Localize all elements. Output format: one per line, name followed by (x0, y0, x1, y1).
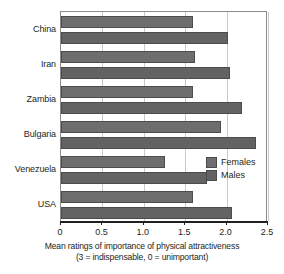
bar-chart-figure: ChinaIranZambiaBulgariaVenezuelaUSA 00.5… (0, 0, 284, 274)
x-tick-label: 2.5 (252, 227, 282, 238)
legend-swatch-icon (206, 157, 217, 168)
bar-males (61, 67, 230, 79)
bar-group (61, 121, 266, 149)
x-tick (101, 221, 102, 225)
bar-females (61, 51, 195, 63)
x-tick (226, 221, 227, 225)
bar-females (61, 121, 221, 133)
x-tick (184, 221, 185, 225)
x-tick (60, 221, 61, 225)
bars-layer (61, 12, 266, 221)
category-label-china: China (0, 24, 56, 34)
bar-group (61, 191, 266, 219)
category-label-venezuela: Venezuela (0, 164, 56, 174)
x-tick-label: 0.5 (86, 227, 116, 238)
category-axis-labels: ChinaIranZambiaBulgariaVenezuelaUSA (0, 11, 56, 222)
bar-females (61, 86, 193, 98)
x-tick-label: 2.0 (211, 227, 241, 238)
legend-swatch-icon (206, 170, 217, 181)
bar-males (61, 137, 256, 149)
bar-group (61, 51, 266, 79)
x-tick-label: 1.0 (128, 227, 158, 238)
legend-label: Females (221, 157, 256, 168)
category-label-bulgaria: Bulgaria (0, 129, 56, 139)
x-axis-subtitle: (3 = indispensable, 0 = unimportant) (0, 252, 284, 263)
bar-group (61, 86, 266, 114)
x-tick (267, 221, 268, 225)
x-tick-label: 0 (45, 227, 75, 238)
bar-group (61, 16, 266, 44)
bar-males (61, 102, 242, 114)
bar-females (61, 16, 193, 28)
plot-area (60, 11, 267, 222)
category-label-zambia: Zambia (0, 94, 56, 104)
gridline (268, 12, 269, 221)
bar-females (61, 191, 193, 203)
legend-item-males: Males (206, 169, 268, 182)
x-axis-title: Mean ratings of importance of physical a… (0, 241, 284, 252)
x-axis-line (60, 221, 267, 223)
category-label-iran: Iran (0, 59, 56, 69)
bar-males (61, 32, 228, 44)
category-label-usa: USA (0, 199, 56, 209)
x-tick-label: 1.5 (169, 227, 199, 238)
bar-males (61, 172, 207, 184)
legend-label: Males (221, 170, 245, 181)
bar-males (61, 207, 232, 219)
chart-legend: FemalesMales (206, 156, 268, 182)
x-tick (143, 221, 144, 225)
bar-females (61, 156, 165, 168)
legend-item-females: Females (206, 156, 268, 169)
